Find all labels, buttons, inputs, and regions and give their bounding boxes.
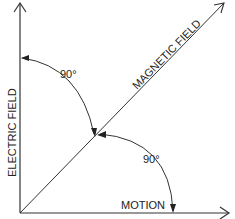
magnetic-field-label: MAGNETIC FIELD: [130, 17, 203, 91]
diagram-canvas: ELECTRIC FIELD MAGNETIC FIELD MOTION 90°…: [0, 0, 235, 219]
electric-field-label: ELECTRIC FIELD: [6, 88, 18, 177]
upper-angle-label: 90°: [60, 68, 77, 80]
arc-arrowhead-left-icon: [21, 55, 29, 61]
upper-angle-arc: [21, 55, 97, 137]
arc-arrowhead-down-icon: [170, 204, 176, 213]
lower-angle-label: 90°: [143, 153, 160, 165]
arc-arrowhead-down-icon: [91, 128, 97, 137]
motion-label: MOTION: [121, 199, 165, 211]
